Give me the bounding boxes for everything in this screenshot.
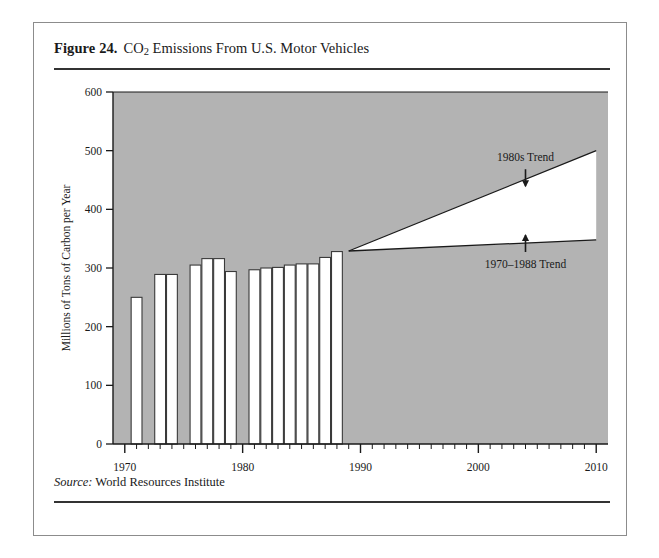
x-tick-label-2000: 2000 bbox=[467, 461, 490, 473]
y-axis-title: Millions of Tons of Carbon per Year bbox=[60, 184, 73, 351]
figure-card: Figure 24.CO2 Emissions From U.S. Motor … bbox=[33, 22, 627, 536]
x-tick-label-1970: 1970 bbox=[113, 461, 136, 473]
source-line: Source: World Resources Institute bbox=[54, 475, 225, 490]
x-tick-label-1990: 1990 bbox=[349, 461, 372, 473]
bar-1987 bbox=[320, 257, 331, 444]
y-tick-label-400: 400 bbox=[85, 203, 103, 215]
bar-1979 bbox=[225, 272, 236, 444]
source-divider bbox=[54, 501, 610, 503]
y-tick-label-600: 600 bbox=[85, 86, 103, 98]
source-value: World Resources Institute bbox=[95, 475, 225, 489]
bar-1978 bbox=[214, 259, 225, 444]
bar-1976 bbox=[190, 265, 201, 444]
y-tick-label-300: 300 bbox=[85, 262, 103, 274]
bar-1985 bbox=[296, 264, 307, 444]
annotation-label-1: 1970–1988 Trend bbox=[485, 258, 567, 270]
bar-1974 bbox=[167, 274, 178, 444]
bar-1988 bbox=[332, 252, 343, 444]
bar-1981 bbox=[249, 270, 260, 444]
source-label: Source: bbox=[54, 475, 92, 489]
bar-1984 bbox=[284, 265, 295, 444]
annotation-label-0: 1980s Trend bbox=[497, 151, 554, 163]
y-tick-label-100: 100 bbox=[85, 379, 103, 391]
y-tick-label-500: 500 bbox=[85, 145, 103, 157]
bar-1971 bbox=[131, 297, 142, 444]
x-axis-ticks: 19701980199020002010 bbox=[113, 444, 608, 473]
bar-1982 bbox=[261, 268, 272, 444]
y-axis-ticks: 0100200300400500600 bbox=[85, 86, 113, 450]
chart-plot-area: 0100200300400500600 19701980199020002010… bbox=[34, 23, 628, 537]
co2-emissions-chart: 0100200300400500600 19701980199020002010… bbox=[34, 23, 628, 537]
bar-1977 bbox=[202, 259, 213, 444]
bar-1986 bbox=[308, 264, 319, 444]
bar-1983 bbox=[273, 267, 284, 444]
x-tick-label-1980: 1980 bbox=[231, 461, 254, 473]
bar-1973 bbox=[155, 274, 166, 444]
y-tick-label-200: 200 bbox=[85, 321, 103, 333]
bar-series bbox=[131, 252, 342, 444]
x-tick-label-2010: 2010 bbox=[585, 461, 608, 473]
y-tick-label-0: 0 bbox=[96, 438, 102, 450]
